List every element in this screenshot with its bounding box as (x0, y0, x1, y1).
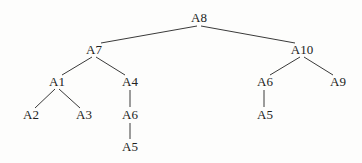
node-a5-left: A5 (121, 140, 139, 154)
edge-n_A7-n_A4 (96, 57, 125, 75)
node-a10: A10 (290, 43, 314, 57)
node-a5-right: A5 (256, 108, 274, 122)
node-a6-right: A6 (256, 75, 274, 89)
edge-n_A8-n_A10 (201, 26, 295, 43)
tree-diagram: A8 A7 A10 A1 A4 A2 A3 A6 A5 A6 A9 A5 (0, 0, 362, 163)
node-a1: A1 (48, 75, 66, 89)
node-a7: A7 (85, 43, 103, 57)
node-a2: A2 (22, 108, 40, 122)
node-a8: A8 (190, 11, 208, 25)
edge-n_A7-n_A1 (62, 57, 92, 75)
edge-n_A1-n_A3 (59, 89, 80, 108)
node-a4: A4 (121, 75, 139, 89)
edge-n_A10-n_A6b (270, 57, 300, 75)
edge-n_A10-n_A9 (304, 57, 333, 75)
edge-n_A8-n_A7 (101, 26, 197, 43)
edge-n_A1-n_A2 (35, 89, 55, 108)
node-a9: A9 (329, 75, 347, 89)
node-a3: A3 (75, 108, 93, 122)
node-a6-left: A6 (121, 108, 139, 122)
